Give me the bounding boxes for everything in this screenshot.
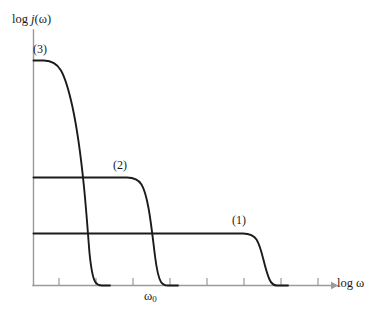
y-axis-label: log j(ω) bbox=[12, 13, 51, 26]
plot-canvas bbox=[0, 0, 387, 317]
y-axis-label-argument: (ω) bbox=[35, 12, 52, 26]
curve-3-path bbox=[34, 61, 111, 286]
curve-label-2: (2) bbox=[113, 159, 127, 171]
curve-2-path bbox=[34, 178, 179, 286]
curve-label-3: (3) bbox=[33, 43, 47, 55]
omega-zero-subscript: 0 bbox=[152, 294, 157, 304]
y-axis-label-prefix: log bbox=[12, 12, 31, 26]
figure-container: log j(ω) log ω ω0 (3) (2) (1) bbox=[0, 0, 387, 317]
curve-1-path bbox=[34, 234, 289, 286]
x-axis-label: log ω bbox=[337, 277, 364, 290]
omega-zero-tick-label: ω0 bbox=[144, 290, 157, 304]
omega-zero-symbol: ω bbox=[144, 289, 152, 303]
curve-label-1: (1) bbox=[232, 214, 246, 226]
